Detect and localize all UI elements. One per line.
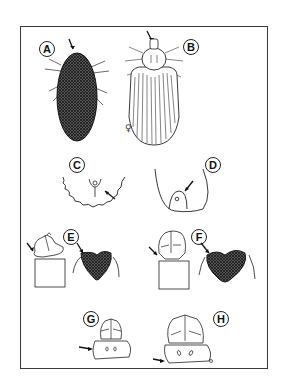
panel-g: G bbox=[71, 309, 161, 367]
basis-capituli-illustration-h bbox=[151, 307, 251, 369]
panel-d: D bbox=[141, 151, 231, 211]
capitulum-scutum-illustration-e bbox=[21, 223, 145, 303]
panel-e: E bbox=[21, 223, 145, 303]
tick-striated-body-illustration bbox=[121, 27, 269, 147]
capitulum-scutum-illustration-f bbox=[143, 223, 269, 303]
basis-capituli-illustration-g bbox=[71, 309, 161, 367]
female-symbol: ♀ bbox=[125, 123, 132, 133]
figure-frame: A B bbox=[20, 26, 268, 369]
festooned-margin-illustration bbox=[51, 151, 141, 211]
panel-b: B ♀ bbox=[121, 27, 269, 147]
panel-c: C bbox=[51, 151, 141, 211]
panel-h: H bbox=[151, 307, 251, 369]
anal-plate-margin-illustration bbox=[141, 151, 231, 211]
panel-f: F bbox=[143, 223, 269, 303]
